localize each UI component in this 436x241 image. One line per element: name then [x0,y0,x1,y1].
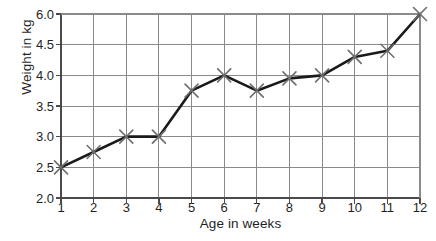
weight-growth-line-chart: Weight in kg 6.04.54.03.53.02.52.0 12345… [0,0,436,241]
data-point-markers [55,8,427,174]
plot-canvas [0,0,436,241]
data-line [61,14,420,167]
horizontal-gridlines [61,45,420,168]
